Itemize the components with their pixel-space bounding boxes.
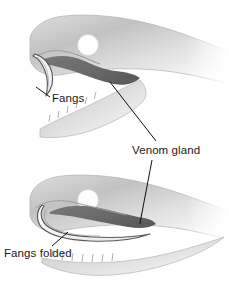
- snake-fang-anatomy-figure: Fangs Venom gland Fangs folded: [0, 0, 229, 297]
- fangs-folded-label: Fangs folded: [4, 247, 72, 260]
- venom-gland-label: Venom gland: [132, 144, 200, 157]
- upper-lower-jaw: [40, 80, 146, 138]
- fangs-label: Fangs: [52, 92, 84, 105]
- panel-upper-fangs-erect: [30, 10, 229, 141]
- upper-eye: [78, 35, 99, 56]
